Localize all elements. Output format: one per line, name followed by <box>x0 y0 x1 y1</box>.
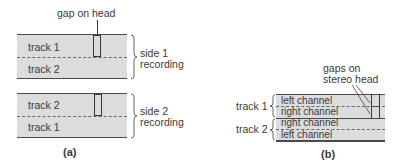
brace-track-1 <box>270 95 275 117</box>
brace-side-2 <box>131 94 137 138</box>
brace-track-2 <box>270 119 275 140</box>
annotation-overlay <box>0 0 399 167</box>
brace-side-1 <box>131 35 137 79</box>
